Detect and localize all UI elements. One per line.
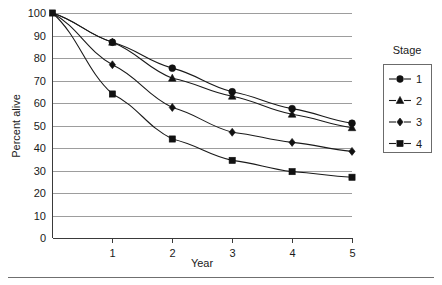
x-tick-label: 4 [289,247,295,259]
x-tick-label: 5 [349,247,355,259]
legend-label: 2 [416,95,422,107]
legend: Stage 1234 [384,44,432,153]
y-tick-label: 0 [40,232,46,244]
survival-curve-figure: 0102030405060708090100 12345 Percent ali… [0,0,442,285]
marker-circle [397,76,404,83]
marker-square [397,140,403,146]
marker-diamond [289,138,295,146]
y-tick-labels-group: 0102030405060708090100 [28,7,46,244]
series-line [53,13,353,123]
y-tick-label: 70 [34,75,46,87]
y-tick-label: 80 [34,52,46,64]
x-tick-labels-group: 12345 [109,247,355,259]
gridlines-group [53,14,353,239]
marker-square [109,91,115,97]
x-axis-title: Year [191,257,214,269]
y-tick-label: 50 [34,120,46,132]
y-tick-label: 100 [28,7,46,19]
y-tick-label: 60 [34,97,46,109]
data-series-group [49,10,355,180]
y-tick-label: 40 [34,142,46,154]
series-line [53,13,353,128]
marker-circle [169,65,176,72]
marker-square [289,169,295,175]
legend-title: Stage [393,44,422,56]
series-line [53,13,353,177]
marker-diamond [169,104,175,112]
legend-label: 3 [416,116,422,128]
series-3 [53,13,356,155]
legend-label: 4 [416,138,422,150]
legend-label: 1 [416,73,422,85]
marker-square [169,136,175,142]
y-tick-label: 90 [34,30,46,42]
y-tick-label: 20 [34,187,46,199]
marker-diamond [229,128,235,136]
axes-group [53,13,353,239]
marker-diamond [109,61,115,69]
marker-square [349,174,355,180]
chart-canvas: 0102030405060708090100 12345 Percent ali… [0,0,442,285]
series-4 [53,13,356,180]
legend-box [384,65,432,153]
marker-square [49,10,55,16]
x-tick-label: 2 [169,247,175,259]
y-tick-label: 30 [34,165,46,177]
x-tick-label: 3 [229,247,235,259]
x-tick-label: 1 [109,247,115,259]
series-1 [53,13,356,127]
y-axis-title: Percent alive [10,94,22,158]
y-tick-label: 10 [34,210,46,222]
series-line [53,13,353,151]
marker-square [229,157,235,163]
